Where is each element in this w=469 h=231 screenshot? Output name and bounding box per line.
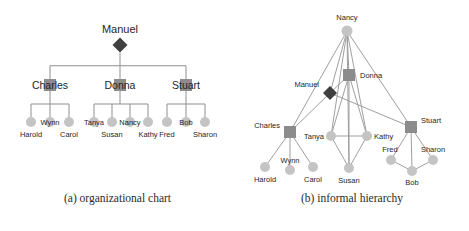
node-sharon: Sharon bbox=[421, 145, 445, 165]
node-label-carol: Carol bbox=[60, 130, 78, 139]
node-harold: Harold bbox=[20, 117, 42, 139]
informal-hierarchy-svg: NancyDonnaManuelCharlesStuartTanyaKathyH… bbox=[235, 0, 469, 185]
node-manuel: Manuel bbox=[294, 80, 337, 100]
square-marker-charles bbox=[284, 126, 296, 138]
circle-marker-carol bbox=[308, 162, 318, 172]
node-charles: Charles bbox=[254, 121, 296, 138]
node-label-charles: Charles bbox=[32, 79, 68, 91]
node-label-manuel: Manuel bbox=[294, 80, 319, 89]
node-label-kathy: Kathy bbox=[374, 132, 393, 141]
circle-marker-sharon bbox=[428, 155, 438, 165]
node-label-wynn: Wynn bbox=[40, 118, 59, 127]
node-label-harold: Harold bbox=[254, 175, 276, 184]
panel-organizational-chart: ManuelCharlesDonnaStuartHaroldWynnCarolT… bbox=[0, 0, 235, 185]
node-label-bob: Bob bbox=[405, 178, 418, 185]
node-label-harold: Harold bbox=[20, 130, 42, 139]
circle-marker-kathy bbox=[143, 117, 153, 127]
node-label-fred: Fred bbox=[382, 145, 397, 154]
circle-marker-susan bbox=[344, 163, 354, 173]
circle-marker-nancy bbox=[342, 26, 353, 37]
node-label-susan: Susan bbox=[101, 130, 122, 139]
circle-marker-harold bbox=[260, 162, 270, 172]
node-susan: Susan bbox=[338, 163, 359, 185]
caption-organizational-chart: (a) organizational chart bbox=[0, 192, 235, 204]
node-label-charles: Charles bbox=[254, 121, 280, 130]
circle-marker-kathy bbox=[362, 131, 372, 141]
figure-two-panel-hierarchy-comparison: ManuelCharlesDonnaStuartHaroldWynnCarolT… bbox=[0, 0, 469, 231]
node-label-donna: Donna bbox=[360, 71, 383, 80]
node-nancy: Nancy bbox=[336, 13, 358, 37]
node-stuart: Stuart bbox=[172, 79, 200, 91]
node-manuel: Manuel bbox=[102, 23, 138, 53]
node-label-wynn: Wynn bbox=[280, 156, 299, 165]
node-carol: Carol bbox=[304, 162, 322, 184]
square-marker-stuart bbox=[405, 121, 417, 133]
node-label-tanya: Tanya bbox=[304, 132, 325, 141]
node-kathy: Kathy bbox=[138, 117, 157, 139]
node-label-kathy: Kathy bbox=[138, 130, 157, 139]
circle-marker-carol bbox=[64, 117, 74, 127]
node-label-manuel: Manuel bbox=[102, 23, 138, 35]
node-label-susan: Susan bbox=[338, 176, 359, 185]
node-tanya: Tanya bbox=[84, 117, 105, 127]
node-wynn: Wynn bbox=[280, 156, 299, 175]
panel-informal-hierarchy: NancyDonnaManuelCharlesStuartTanyaKathyH… bbox=[235, 0, 469, 185]
node-label-tanya: Tanya bbox=[84, 118, 105, 127]
node-fred: Fred bbox=[382, 145, 397, 165]
node-carol: Carol bbox=[60, 117, 78, 139]
circle-marker-fred bbox=[162, 117, 172, 127]
node-label-stuart: Stuart bbox=[421, 116, 442, 125]
circle-marker-tanya bbox=[326, 131, 336, 141]
caption-informal-hierarchy: (b) informal hierarchy bbox=[235, 192, 469, 204]
node-donna: Donna bbox=[105, 79, 136, 91]
node-label-carol: Carol bbox=[304, 175, 322, 184]
circle-marker-wynn bbox=[285, 165, 295, 175]
node-label-stuart: Stuart bbox=[172, 79, 200, 91]
node-label-sharon: Sharon bbox=[193, 130, 217, 139]
node-fred: Fred bbox=[159, 117, 174, 139]
node-charles: Charles bbox=[32, 79, 68, 91]
diamond-marker-manuel bbox=[113, 38, 128, 53]
node-tanya: Tanya bbox=[304, 131, 336, 141]
node-stuart: Stuart bbox=[405, 116, 442, 133]
circle-marker-susan bbox=[107, 117, 117, 127]
node-bob: Bob bbox=[179, 117, 192, 127]
node-nancy: Nancy bbox=[119, 117, 141, 127]
circle-marker-sharon bbox=[200, 117, 210, 127]
node-label-sharon: Sharon bbox=[421, 145, 445, 154]
node-label-nancy: Nancy bbox=[119, 118, 141, 127]
node-harold: Harold bbox=[254, 162, 276, 184]
square-marker-donna bbox=[343, 69, 355, 81]
circle-marker-fred bbox=[386, 155, 396, 165]
node-sharon: Sharon bbox=[193, 117, 217, 139]
node-label-bob: Bob bbox=[179, 118, 192, 127]
circle-marker-harold bbox=[26, 117, 36, 127]
node-label-fred: Fred bbox=[159, 130, 174, 139]
organizational-chart-svg: ManuelCharlesDonnaStuartHaroldWynnCarolT… bbox=[0, 0, 235, 185]
node-kathy: Kathy bbox=[362, 131, 393, 141]
node-donna: Donna bbox=[343, 69, 383, 81]
node-label-nancy: Nancy bbox=[336, 13, 358, 22]
circle-marker-bob bbox=[407, 166, 417, 176]
node-wynn: Wynn bbox=[40, 117, 59, 127]
node-label-donna: Donna bbox=[105, 79, 136, 91]
